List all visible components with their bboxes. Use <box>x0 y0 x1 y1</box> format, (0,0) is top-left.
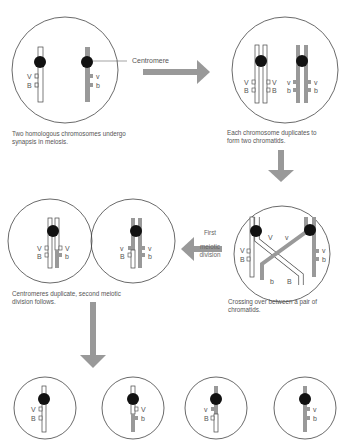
gene-label-v: v <box>204 406 208 413</box>
centromere-icon <box>38 393 50 405</box>
caption-line: Each chromosome duplicates to <box>227 129 317 137</box>
gene-label-B: B <box>204 415 209 422</box>
gene-label-v: v <box>285 234 289 241</box>
gene-label-v: v <box>287 79 291 86</box>
gene-label-V: V <box>244 79 249 86</box>
gene-label-V: V <box>65 245 70 252</box>
caption-line: form two chromatids. <box>227 137 317 145</box>
gene-label-b: b <box>270 278 274 285</box>
gene-label-v: v <box>148 245 152 252</box>
label-line: division <box>195 251 225 259</box>
gene-label-V: V <box>31 406 36 413</box>
step2-caption: Each chromosome duplicates to form two c… <box>227 129 317 145</box>
caption-line: Crossing over between a pair of <box>228 298 317 306</box>
centromere-icon <box>47 225 59 237</box>
gene-label-v: v <box>322 247 326 254</box>
caption-line: synapsis in meiosis. <box>12 138 126 146</box>
gene-label-V: V <box>27 73 32 80</box>
step3-cell: V B V v v b b B <box>234 206 330 302</box>
centromere-icon <box>299 393 311 405</box>
arrow-down-1 <box>268 150 294 182</box>
caption-line: chromatids. <box>228 306 317 314</box>
gene-label-B: B <box>240 256 245 263</box>
gene-label-B: B <box>37 253 42 260</box>
label-line: meiotic <box>195 243 225 251</box>
gene-label-b: b <box>322 256 326 263</box>
gene-label-b: b <box>96 82 100 89</box>
first-meiotic-division-label: First meiotic division <box>195 229 225 259</box>
gene-label-b: b <box>148 253 152 260</box>
caption-line: Centromeres duplicate, second meiotic <box>12 290 121 298</box>
centromere-icon <box>250 225 262 237</box>
gamete-1: V B <box>14 377 76 439</box>
gene-label-b: b <box>314 87 318 94</box>
step3-caption: Crossing over between a pair of chromati… <box>228 298 317 314</box>
gene-label-B: B <box>272 87 277 94</box>
gene-label-b: b <box>313 415 317 422</box>
gene-label-B: B <box>27 82 32 89</box>
gene-label-B: B <box>244 87 249 94</box>
gray-chromosome: v b <box>81 47 100 102</box>
white-chromatid-pair: V B V B <box>244 45 277 103</box>
gene-label-b: b <box>65 253 69 260</box>
centromere-icon <box>255 55 267 67</box>
centromere-icon <box>210 393 222 405</box>
gamete-4: v b <box>274 377 336 439</box>
centromere-label: Centromere <box>132 57 169 64</box>
gene-label-b: b <box>141 415 145 422</box>
gene-label-v: v <box>313 406 317 413</box>
gene-label-V: V <box>37 245 42 252</box>
gene-label-V: V <box>141 406 146 413</box>
caption-line: Two homologous chromosomes undergo <box>12 130 126 138</box>
centromere-icon <box>81 56 93 68</box>
step4-caption: Centromeres duplicate, second meiotic di… <box>12 290 121 306</box>
centromere-icon <box>127 393 139 405</box>
arrow-down-2 <box>80 302 106 368</box>
step1-caption: Two homologous chromosomes undergo synap… <box>12 130 126 146</box>
gray-chromatid-pair: v b v b <box>287 45 318 103</box>
white-chromosome: V B <box>27 47 46 102</box>
gene-label-v: v <box>314 79 318 86</box>
gene-label-V: V <box>240 247 245 254</box>
gamete-3: v B <box>185 377 247 439</box>
gene-label-b: b <box>287 87 291 94</box>
gene-label-v: v <box>120 245 124 252</box>
label-line: First <box>195 229 225 237</box>
centromere-icon <box>130 225 142 237</box>
gene-label-B: B <box>287 278 292 285</box>
gene-label-v: v <box>96 73 100 80</box>
caption-line: division follows. <box>12 298 121 306</box>
gene-label-B: B <box>120 253 125 260</box>
step4-cells: V B V b v B v b <box>8 199 175 283</box>
step2-cell: V B V B v b v b <box>232 17 338 123</box>
meiosis-crossing-over-diagram: V B v b Centromere V B <box>0 0 349 447</box>
gene-label-B: B <box>31 415 36 422</box>
centromere-icon <box>304 224 316 236</box>
centromere-icon <box>34 56 46 68</box>
gamete-2: V b <box>102 377 164 439</box>
gene-label-V: V <box>272 79 277 86</box>
centromere-icon <box>296 55 308 67</box>
gene-label-V: V <box>268 234 273 241</box>
